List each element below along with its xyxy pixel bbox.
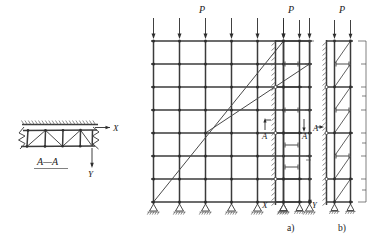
- scheme-b-strut: [336, 62, 349, 67]
- pin-support: [294, 204, 304, 214]
- structural-figure: X: [0, 0, 373, 240]
- section-axis-y-label: Y: [88, 169, 94, 179]
- scheme-a-axis-x-label: X: [261, 200, 268, 210]
- scheme-a-caption: a): [287, 223, 294, 234]
- scheme-a-strut: [285, 143, 298, 148]
- section-view-group: X: [19, 121, 120, 180]
- pin-support: [329, 204, 339, 214]
- scheme-b-group: P: [312, 4, 366, 234]
- scheme-b-diagonal: [335, 133, 351, 156]
- main-frame-supports: [147, 204, 315, 215]
- scheme-b-load-arrows: [333, 20, 353, 39]
- truss-bottom-chord: [21, 146, 95, 147]
- pin-support: [345, 204, 355, 214]
- truss-vertical: [45, 130, 46, 146]
- section-axis-y: Y: [88, 148, 94, 179]
- scheme-a-section-marker-left: A: [261, 118, 271, 141]
- section-top-hatching: [22, 121, 99, 125]
- scheme-b-strut: [336, 108, 349, 113]
- scheme-a-strut: [285, 165, 298, 170]
- section-truss: [21, 129, 97, 148]
- pin-support: [147, 204, 159, 215]
- truss-vertical: [27, 130, 28, 146]
- section-axis-x: X: [95, 123, 119, 133]
- scheme-a-section-label-right: A: [301, 131, 308, 141]
- truss-diagonal: [46, 130, 63, 146]
- scheme-a-axis-y-label: Y: [312, 200, 318, 210]
- scheme-a-section-marker-right: A: [301, 119, 308, 141]
- scheme-a-strut: [285, 62, 298, 67]
- truss-diagonal: [27, 130, 46, 146]
- pin-support: [199, 204, 211, 215]
- scheme-a-supports: [278, 204, 304, 214]
- scheme-b-diagonal-braces: [335, 41, 351, 202]
- scheme-a-struts: [285, 62, 298, 170]
- scheme-a-load-label: P: [287, 4, 294, 15]
- scheme-b-caption: b): [338, 223, 346, 234]
- scheme-a-load-arrows: [282, 20, 302, 39]
- scheme-b-section-marker: A: [312, 123, 324, 133]
- scheme-b-diagonal: [335, 110, 351, 133]
- scheme-b-load-label: P: [338, 4, 345, 15]
- pin-support: [225, 204, 237, 215]
- main-frame-load-arrows: [152, 18, 312, 39]
- section-axis-x-label: X: [112, 123, 119, 133]
- scheme-b-supports: [329, 204, 355, 214]
- scheme-a-section-label: A: [261, 131, 268, 141]
- truss-top-chord: [23, 130, 97, 131]
- scheme-b-section-label: A: [312, 123, 319, 133]
- scheme-b-dimension-bracket: [358, 41, 366, 202]
- scheme-b-diagonal: [335, 64, 351, 87]
- scheme-b-diagonal: [335, 156, 351, 179]
- scheme-a-strut: [285, 108, 298, 113]
- scheme-b-diagonal: [335, 87, 351, 110]
- main-frame-group: P: [147, 4, 315, 215]
- section-caption: A—A: [36, 156, 59, 167]
- scheme-b-strut: [336, 154, 349, 159]
- pin-support: [173, 204, 185, 215]
- scheme-b-diagonal: [335, 41, 351, 64]
- scheme-a-beams: [276, 41, 311, 202]
- scheme-b-diagonal: [335, 179, 351, 202]
- main-frame-load-label: P: [198, 4, 205, 15]
- truss-diagonal: [81, 130, 93, 146]
- truss-diagonal: [63, 130, 81, 146]
